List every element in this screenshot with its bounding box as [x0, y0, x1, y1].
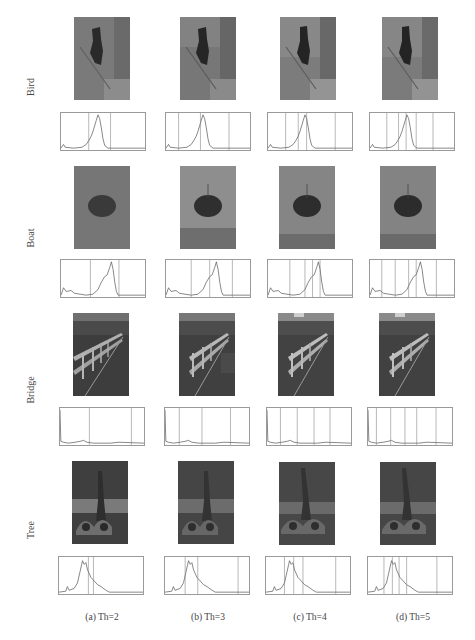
boat-histogram-th2	[60, 259, 146, 298]
bridge-image-th4	[278, 313, 334, 396]
bird-image-th3	[180, 17, 236, 100]
tree-image-th4	[279, 462, 335, 545]
bird-histogram-th4	[267, 112, 353, 151]
boat-histogram-th5	[369, 259, 455, 298]
boat-image-th2	[74, 166, 130, 249]
bird-histogram-th3	[165, 112, 251, 151]
boat-image-th3	[180, 166, 236, 249]
tree-histogram-th3	[164, 556, 250, 595]
bridge-histogram-th3	[164, 407, 250, 446]
boat-image-th4	[279, 166, 335, 249]
bridge-histogram-th2	[59, 407, 145, 446]
boat-histogram-th4	[267, 259, 353, 298]
bird-image-th5	[382, 17, 438, 100]
tree-image-th3	[178, 461, 234, 544]
tree-image-th5	[380, 462, 436, 545]
row-label-bridge: Bridge	[25, 370, 39, 410]
boat-histogram-th3	[165, 259, 251, 298]
bird-histogram-th2	[60, 112, 146, 151]
bridge-histogram-th4	[266, 407, 352, 446]
caption-col-c: (c) Th=4	[265, 612, 355, 622]
bridge-image-th2	[73, 313, 129, 396]
caption-col-d: (d) Th=5	[368, 612, 458, 622]
row-label-tree: Tree	[25, 510, 39, 550]
bird-histogram-th5	[369, 112, 455, 151]
tree-histogram-th2	[58, 556, 144, 595]
row-label-bird: Bird	[25, 67, 39, 107]
caption-col-a: (a) Th=2	[57, 612, 147, 622]
figure: Bird Boat Bridge Tree	[0, 0, 475, 640]
tree-histogram-th5	[367, 556, 453, 595]
tree-image-th2	[72, 461, 128, 544]
boat-image-th5	[380, 166, 436, 249]
bird-image-th4	[280, 17, 336, 100]
bridge-image-th3	[179, 313, 235, 396]
bridge-image-th5	[379, 313, 435, 396]
tree-histogram-th4	[265, 556, 351, 595]
bird-image-th2	[74, 17, 130, 100]
row-label-boat: Boat	[25, 218, 39, 258]
caption-col-b: (b) Th=3	[163, 612, 253, 622]
bridge-histogram-th5	[367, 407, 453, 446]
